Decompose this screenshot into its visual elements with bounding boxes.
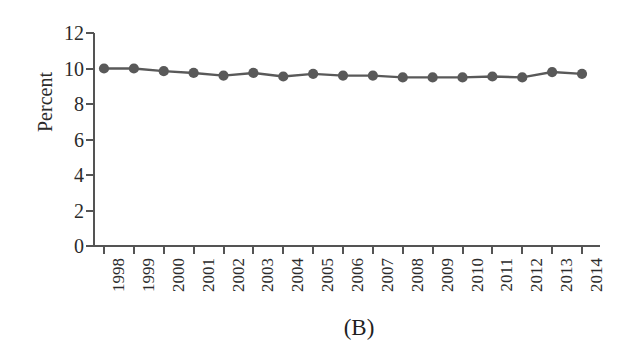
data-point xyxy=(218,71,228,81)
data-point xyxy=(398,72,408,82)
data-point xyxy=(308,69,318,79)
panel-label-text: (B) xyxy=(344,315,375,340)
data-point xyxy=(547,67,557,77)
data-point xyxy=(428,72,438,82)
chart-figure: Percent 121086420 1998199920002001200220… xyxy=(0,0,618,362)
data-point xyxy=(248,68,258,78)
data-point xyxy=(278,71,288,81)
data-point xyxy=(129,63,139,73)
panel-label: (B) xyxy=(0,316,618,339)
data-point xyxy=(368,71,378,81)
data-point xyxy=(577,69,587,79)
data-point xyxy=(487,71,497,81)
data-point xyxy=(517,72,527,82)
data-point xyxy=(99,63,109,73)
series-plot xyxy=(0,0,618,362)
data-point xyxy=(338,71,348,81)
data-point xyxy=(457,72,467,82)
data-point xyxy=(159,66,169,76)
series-markers-percent xyxy=(99,63,587,82)
data-point xyxy=(189,68,199,78)
